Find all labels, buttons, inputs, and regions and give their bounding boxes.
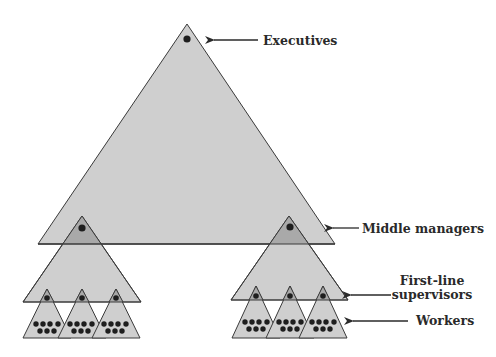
label-middle-managers: Middle managers [362,221,484,236]
executive-pyramid [38,24,335,244]
label-executives: Executives [263,33,337,48]
middle-manager-dot [78,224,85,231]
org-hierarchy-diagram: Executives Middle managers First-line su… [0,0,496,357]
middle-manager-dot [286,223,293,230]
label-workers: Workers [415,313,474,328]
label-first-line: First-line [400,273,465,288]
label-supervisors: supervisors [392,287,472,302]
executive-dot [183,35,190,42]
